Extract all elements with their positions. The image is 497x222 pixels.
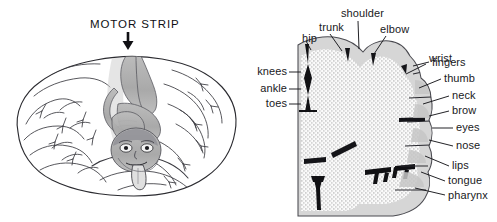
label-nose: nose bbox=[456, 139, 480, 151]
motor-homunculus-figure: MOTOR STRIP bbox=[0, 0, 497, 222]
label-brow: brow bbox=[452, 104, 476, 116]
label-shoulder: shoulder bbox=[341, 7, 384, 19]
brain-panel: MOTOR STRIP bbox=[0, 0, 249, 222]
label-knees: knees bbox=[249, 65, 287, 77]
leader-shoulder bbox=[358, 21, 359, 49]
label-tongue: tongue bbox=[448, 174, 482, 186]
leader-nose bbox=[429, 140, 453, 146]
label-trunk: trunk bbox=[319, 21, 344, 33]
cortex-panel: hip trunk shoulder elbow wrist knees ank… bbox=[249, 0, 497, 222]
label-ankle: ankle bbox=[249, 82, 287, 94]
label-thumb: thumb bbox=[444, 72, 475, 84]
label-lips: lips bbox=[452, 159, 469, 171]
label-toes: toes bbox=[249, 97, 287, 109]
label-fingers: fingers bbox=[432, 56, 466, 68]
label-eyes: eyes bbox=[456, 121, 480, 133]
label-neck: neck bbox=[452, 89, 476, 101]
label-elbow: elbow bbox=[380, 23, 409, 35]
motor-strip-arrow bbox=[123, 32, 134, 50]
label-hip: hip bbox=[302, 32, 317, 44]
label-pharynx: pharynx bbox=[448, 189, 488, 201]
brain-illustration bbox=[0, 0, 249, 222]
